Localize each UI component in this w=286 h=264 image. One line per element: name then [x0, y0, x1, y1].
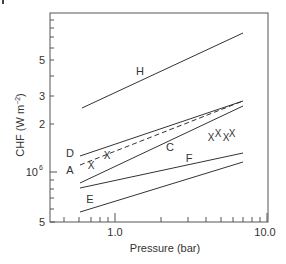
x-tick-1: 1.0: [107, 226, 122, 238]
x-markers: X X X X X X: [88, 128, 236, 171]
label-c: C: [166, 141, 174, 153]
y-tick-1e6-exponent: 6: [39, 164, 43, 171]
curve-c: [80, 106, 243, 183]
y-tick-5e5: 5: [39, 216, 45, 228]
x-tick-10: 10.0: [254, 226, 275, 238]
label-e: E: [86, 193, 93, 205]
marker-x: X: [229, 128, 236, 139]
x-axis-title: Pressure (bar): [130, 242, 200, 254]
label-a: A: [66, 164, 74, 176]
label-h: H: [136, 65, 144, 77]
marker-x: X: [215, 128, 222, 139]
label-f: F: [186, 152, 193, 164]
x-axis-ticks: [64, 213, 267, 222]
svg-text:CHF (W m−2): CHF (W m−2): [14, 93, 26, 157]
curve-e: [80, 162, 243, 212]
corner-mark: [2, 0, 4, 4]
curve-h: [82, 33, 243, 108]
y-tick-5e6: 5: [39, 54, 45, 66]
y-axis-ticks: [50, 20, 57, 222]
y-tick-2e6: 2: [39, 118, 45, 130]
curves: [80, 33, 243, 212]
plot-frame: [50, 13, 268, 222]
chf-pressure-chart: 5 10 6 2 3 5 1.0 10.0 Pressure (bar) CHF…: [0, 0, 286, 264]
marker-x: X: [104, 150, 111, 161]
y-tick-1e6: 10: [26, 166, 38, 178]
y-tick-3e6: 3: [39, 90, 45, 102]
label-d: D: [66, 147, 74, 159]
marker-x: X: [208, 132, 215, 143]
y-axis-title: CHF (W m−2): [14, 93, 26, 157]
marker-x: X: [88, 160, 95, 171]
